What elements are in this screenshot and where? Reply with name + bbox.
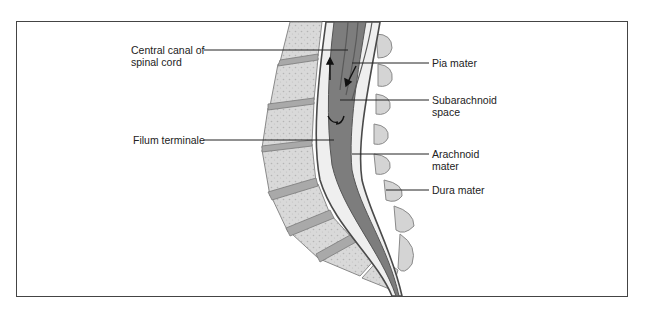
spine-illustration [0, 0, 646, 310]
label-subarachnoid-space: Subarachnoid space [432, 94, 497, 118]
label-central-canal: Central canal of spinal cord [131, 44, 205, 68]
label-arachnoid-line1: Arachnoid [432, 148, 479, 160]
label-central-canal-line2: spinal cord [131, 56, 205, 68]
label-arachnoid-line2: mater [432, 160, 479, 172]
label-dura-mater: Dura mater [432, 184, 485, 196]
label-arachnoid-mater: Arachnoid mater [432, 148, 479, 172]
label-subarachnoid-line2: space [432, 106, 497, 118]
label-filum-terminale: Filum terminale [133, 134, 205, 146]
label-subarachnoid-line1: Subarachnoid [432, 94, 497, 106]
label-central-canal-line1: Central canal of [131, 44, 205, 56]
label-pia-mater: Pia mater [432, 57, 477, 69]
